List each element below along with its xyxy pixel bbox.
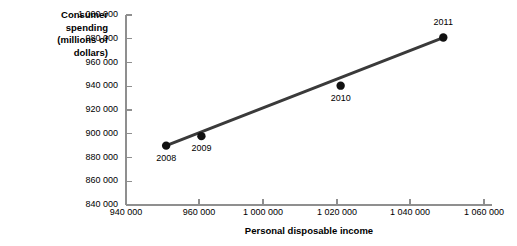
data-point-label: 2010 — [321, 93, 361, 103]
data-point — [162, 141, 170, 149]
data-point-label: 2009 — [181, 143, 221, 153]
trend-line — [166, 38, 443, 146]
data-point-label: 2011 — [423, 17, 463, 27]
x-axis-title: Personal disposable income — [126, 225, 492, 238]
data-point-label: 2008 — [146, 153, 186, 163]
data-point — [336, 81, 344, 89]
data-point — [197, 132, 205, 140]
data-point — [439, 33, 447, 41]
scatter-chart: Consumer spending (millions of dollars) … — [0, 0, 517, 246]
chart-canvas — [0, 0, 517, 246]
